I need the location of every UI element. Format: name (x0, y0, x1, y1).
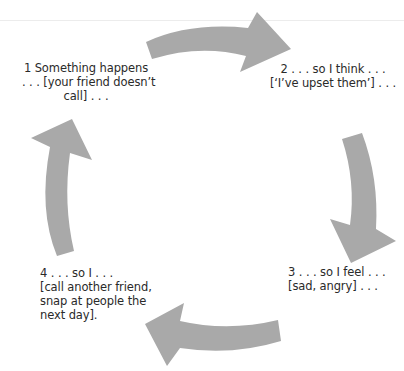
cycle-step-4-label: 4 . . . so I . . . [call another friend,… (40, 266, 152, 322)
step-3-line-1: 3 . . . so I feel . . . (288, 265, 386, 279)
curved-arrow-down-icon (330, 133, 396, 263)
step-3-line-2: [sad, angry] . . . (288, 279, 386, 293)
step-1-line-1: 1 Something happens (22, 61, 150, 75)
step-4-line-2: [call another friend, (40, 280, 152, 294)
cycle-step-1-label: 1 Something happens . . . [your friend d… (22, 61, 150, 103)
step-4-line-4: next day]. (40, 308, 152, 322)
curved-arrow-left-icon (145, 303, 281, 366)
step-4-line-1: 4 . . . so I . . . (40, 266, 152, 280)
cycle-step-2-label: 2 . . . so I think . . . [‘I’ve upset th… (268, 62, 398, 90)
step-1-line-2: . . . [your friend doesn’t (22, 75, 150, 89)
step-2-line-2: [‘I’ve upset them’] . . . (268, 76, 398, 90)
step-2-line-1: 2 . . . so I think . . . (268, 62, 398, 76)
step-4-line-3: snap at people the (40, 294, 152, 308)
step-1-line-3: call] . . . (22, 89, 150, 103)
curved-arrow-up-icon (31, 119, 92, 256)
cycle-step-3-label: 3 . . . so I feel . . . [sad, angry] . .… (288, 265, 386, 293)
